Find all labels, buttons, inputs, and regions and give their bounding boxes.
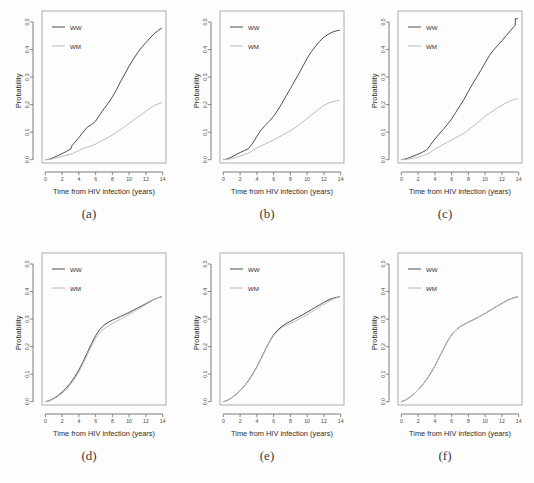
y-tick-label: 0.0 <box>25 156 31 163</box>
panel-caption-e: (e) <box>178 448 356 464</box>
legend-label-ww: WW <box>70 24 82 31</box>
x-tick-label: 10 <box>126 418 132 424</box>
x-tick-label: 2 <box>61 418 64 424</box>
x-tick-label: 12 <box>321 418 327 424</box>
series-line-wm <box>401 296 517 401</box>
x-tick-label: 10 <box>482 418 488 424</box>
x-tick-label: 14 <box>516 176 522 182</box>
x-tick-label: 0 <box>222 418 225 424</box>
y-tick-label: 0.3 <box>203 73 209 80</box>
legend-label-ww: WW <box>70 265 82 272</box>
y-tick-label: 0.1 <box>25 370 31 377</box>
x-tick-label: 8 <box>289 418 292 424</box>
x-tick-label: 2 <box>417 418 420 424</box>
x-axis-title: Time from HIV infection (years) <box>231 429 333 438</box>
legend-label-wm: WM <box>248 43 259 50</box>
x-tick-label: 6 <box>450 418 453 424</box>
x-tick-label: 14 <box>338 418 344 424</box>
plot-area-f: 02468101214Time from HIV infection (year… <box>356 242 534 449</box>
x-tick-label: 4 <box>77 176 80 182</box>
plot-frame <box>398 253 522 405</box>
x-tick-label: 4 <box>255 418 258 424</box>
x-tick-label: 2 <box>239 176 242 182</box>
y-tick-label: 0.0 <box>25 397 31 404</box>
series-line-ww <box>223 296 339 401</box>
y-tick-label: 0.4 <box>203 46 209 53</box>
x-tick-label: 10 <box>304 176 310 182</box>
legend-label-wm: WM <box>426 43 437 50</box>
chart-panel-f: 02468101214Time from HIV infection (year… <box>356 242 534 483</box>
x-tick-label: 2 <box>61 176 64 182</box>
legend-label-wm: WM <box>248 284 259 291</box>
plot-frame <box>42 11 166 163</box>
series-line-wm <box>45 296 161 401</box>
x-tick-label: 4 <box>255 176 258 182</box>
y-tick-label: 0.4 <box>381 46 387 53</box>
y-tick-label: 0.0 <box>381 156 387 163</box>
x-tick-label: 2 <box>239 418 242 424</box>
y-tick-label: 0.1 <box>203 128 209 135</box>
series-line-ww <box>45 296 161 401</box>
y-tick-label: 0.5 <box>203 260 209 267</box>
y-tick-label: 0.4 <box>381 287 387 294</box>
panel-caption-f: (f) <box>356 448 534 464</box>
x-tick-label: 4 <box>433 176 436 182</box>
y-tick-label: 0.2 <box>381 342 387 349</box>
legend-label-wm: WM <box>426 284 437 291</box>
legend-label-wm: WM <box>70 284 81 291</box>
x-tick-label: 0 <box>222 176 225 182</box>
panel-caption-a: (a) <box>0 206 178 222</box>
x-tick-label: 10 <box>304 418 310 424</box>
y-tick-label: 0.2 <box>25 342 31 349</box>
y-tick-label: 0.2 <box>203 342 209 349</box>
x-tick-label: 8 <box>467 418 470 424</box>
legend-label-ww: WW <box>248 24 260 31</box>
chart-svg-b: 02468101214Time from HIV infection (year… <box>178 0 356 207</box>
legend-label-ww: WW <box>248 265 260 272</box>
panel-grid: 02468101214Time from HIV infection (year… <box>0 0 534 483</box>
series-line-ww <box>401 296 517 401</box>
y-axis-title: Probability <box>193 315 202 350</box>
chart-panel-b: 02468101214Time from HIV infection (year… <box>178 0 356 242</box>
y-tick-label: 0.0 <box>203 397 209 404</box>
y-tick-label: 0.0 <box>203 156 209 163</box>
legend-label-ww: WW <box>426 265 438 272</box>
x-axis-title: Time from HIV infection (years) <box>53 429 155 438</box>
y-tick-label: 0.1 <box>203 370 209 377</box>
series-line-ww <box>401 19 517 160</box>
chart-svg-d: 02468101214Time from HIV infection (year… <box>0 242 178 449</box>
x-tick-label: 2 <box>417 176 420 182</box>
figure-panel-grid: 02468101214Time from HIV infection (year… <box>0 0 534 483</box>
x-tick-label: 12 <box>499 176 505 182</box>
x-tick-label: 10 <box>482 176 488 182</box>
y-tick-label: 0.1 <box>381 370 387 377</box>
y-tick-label: 0.2 <box>203 101 209 108</box>
x-tick-label: 8 <box>289 176 292 182</box>
plot-area-a: 02468101214Time from HIV infection (year… <box>0 0 178 207</box>
x-tick-label: 0 <box>44 418 47 424</box>
y-tick-label: 0.1 <box>25 128 31 135</box>
panel-caption-d: (d) <box>0 448 178 464</box>
x-axis-title: Time from HIV infection (years) <box>409 429 511 438</box>
y-axis-title: Probability <box>371 73 380 108</box>
y-tick-label: 0.2 <box>381 101 387 108</box>
x-tick-label: 14 <box>160 176 166 182</box>
x-tick-label: 6 <box>94 418 97 424</box>
legend-label-ww: WW <box>426 24 438 31</box>
x-tick-label: 14 <box>160 418 166 424</box>
series-line-wm <box>401 99 517 160</box>
x-axis-title: Time from HIV infection (years) <box>409 187 511 196</box>
chart-svg-e: 02468101214Time from HIV infection (year… <box>178 242 356 449</box>
y-axis-title: Probability <box>15 315 24 350</box>
x-tick-label: 14 <box>516 418 522 424</box>
x-tick-label: 8 <box>467 176 470 182</box>
plot-frame <box>220 11 344 163</box>
x-tick-label: 6 <box>450 176 453 182</box>
chart-svg-c: 02468101214Time from HIV infection (year… <box>356 0 534 207</box>
x-tick-label: 4 <box>433 418 436 424</box>
x-tick-label: 12 <box>143 176 149 182</box>
x-tick-label: 6 <box>272 176 275 182</box>
y-tick-label: 0.3 <box>25 73 31 80</box>
series-line-wm <box>45 103 161 160</box>
y-tick-label: 0.3 <box>381 73 387 80</box>
